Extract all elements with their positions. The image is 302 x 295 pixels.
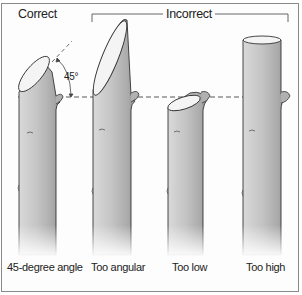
- angle-label: 45°: [64, 71, 78, 82]
- panel-label-too-angular: Too angular: [91, 261, 145, 273]
- heading-incorrect: Incorrect: [163, 7, 215, 21]
- stem-too-low: [164, 92, 214, 258]
- panel-label-too-high: Too high: [246, 261, 285, 273]
- stem-too-angular: [88, 18, 141, 257]
- heading-correct: Correct: [18, 7, 57, 21]
- pruning-illustration: [0, 0, 302, 295]
- stem-correct-45-degree: [14, 52, 63, 257]
- panel-label-too-low: Too low: [172, 261, 207, 273]
- panel-label-45-degree: 45-degree angle: [7, 261, 83, 273]
- stem-too-high: [239, 36, 291, 257]
